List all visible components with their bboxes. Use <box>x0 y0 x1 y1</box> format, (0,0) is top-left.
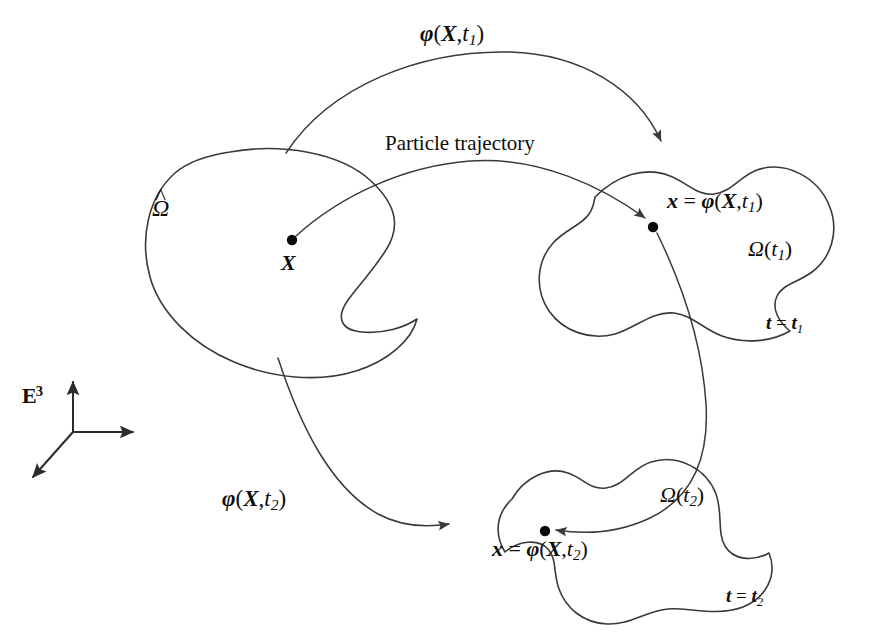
omega-symbol: Ω <box>748 236 764 261</box>
paren-open: ( <box>235 486 243 511</box>
phi-symbol: φ <box>222 486 235 511</box>
paren-close: ) <box>755 188 762 213</box>
equals-glyph: = <box>736 585 747 606</box>
phi-t2-label: φ(X,t2) <box>222 487 286 513</box>
paren-close: ) <box>278 486 286 511</box>
time-t2-label: t = t2 <box>726 586 763 609</box>
omega-hat-group: ^Ω <box>152 196 169 220</box>
material-coord-symbol: X <box>547 536 562 561</box>
material-coord-symbol: X <box>243 486 258 511</box>
material-coord-symbol: X <box>722 188 737 213</box>
particle-trajectory-label: Particle trajectory <box>385 133 535 154</box>
equals-glyph: = <box>509 536 521 561</box>
diagram-canvas <box>0 0 890 641</box>
time-subscript: 1 <box>777 247 784 263</box>
paren-open: ( <box>539 536 546 561</box>
spatial-point-t2-label: x = φ(X,t2) <box>492 538 588 563</box>
time-subscript: 2 <box>689 493 696 509</box>
equals-glyph: = <box>776 312 787 333</box>
spatial-point-t1-label: x = φ(X,t1) <box>667 190 763 215</box>
paren-open: ( <box>714 188 721 213</box>
time-subscript: 2 <box>757 594 763 609</box>
paren-open: ( <box>433 21 441 46</box>
material-point-label: X <box>281 252 296 274</box>
phi-t2-arrow <box>278 358 449 526</box>
ambient-space-label: E3 <box>22 384 43 407</box>
reference-body-label: ^Ω <box>152 196 169 220</box>
phi-symbol: φ <box>701 188 714 213</box>
axis-oblique <box>33 432 73 477</box>
deformation-diagram: φ(X,t1) φ(X,t2) Particle trajectory ^Ω X… <box>0 0 890 641</box>
hat-accent: ^ <box>155 186 166 209</box>
blackboard-E-symbol: E <box>22 383 36 408</box>
paren-close: ) <box>697 482 704 507</box>
omega-symbol: Ω <box>660 482 676 507</box>
paren-close: ) <box>580 536 587 561</box>
paren-close: ) <box>476 21 484 46</box>
time-t1-label: t = t1 <box>766 313 803 336</box>
spatial-point-t2-dot <box>540 526 550 536</box>
material-point-dot <box>287 235 297 245</box>
trajectory-segment-1 <box>296 160 645 236</box>
paren-close: ) <box>785 236 792 261</box>
equals-glyph: = <box>684 188 696 213</box>
spatial-coord-symbol: x <box>492 536 503 561</box>
time-subscript: 1 <box>797 321 803 336</box>
current-body-t2-label: Ω(t2) <box>660 484 704 509</box>
phi-symbol: φ <box>526 536 539 561</box>
phi-symbol: φ <box>420 21 433 46</box>
material-coord-symbol: X <box>441 21 456 46</box>
spatial-coord-symbol: x <box>667 188 678 213</box>
current-body-t1-label: Ω(t1) <box>748 238 792 263</box>
phi-t1-label: φ(X,t1) <box>420 22 484 48</box>
spatial-point-t1-dot <box>648 222 658 232</box>
dimension-exponent: 3 <box>36 383 43 399</box>
